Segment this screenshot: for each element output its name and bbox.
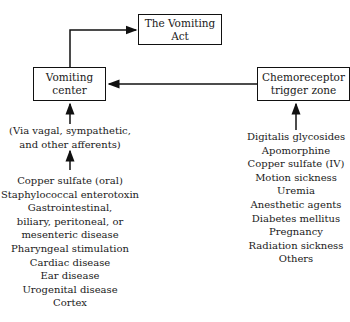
list-item: Copper sulfate (oral) xyxy=(0,174,140,188)
list-item: Cortex xyxy=(0,296,140,310)
list-item: Diabetes mellitus xyxy=(246,212,346,226)
vomiting-act-node: The Vomiting Act xyxy=(138,14,222,45)
ctz-node: Chemoreceptor trigger zone xyxy=(257,67,350,101)
vomiting-act-label: The Vomiting Act xyxy=(139,17,221,43)
list-item: Apomorphine xyxy=(246,144,346,158)
list-item: Radiation sickness xyxy=(246,239,346,253)
vomiting-center-label-2: center xyxy=(52,84,86,97)
list-item: Uremia xyxy=(246,184,346,198)
list-item: Motion sickness xyxy=(246,171,346,185)
list-item: Gastrointestinal, xyxy=(0,201,140,215)
list-item: Others xyxy=(246,252,346,266)
list-item: Anesthetic agents xyxy=(246,198,346,212)
afferents-label: (Via vagal, sympathetic, and other affer… xyxy=(0,124,140,151)
list-item: Copper sulfate (IV) xyxy=(246,157,346,171)
list-item: Ear disease xyxy=(0,269,140,283)
list-item: Urogenital disease xyxy=(0,283,140,297)
list-item: Pregnancy xyxy=(246,225,346,239)
list-item: mesenteric disease xyxy=(0,228,140,242)
list-item: Digitalis glycosides xyxy=(246,130,346,144)
list-item: Staphylococcal enterotoxin xyxy=(0,188,140,202)
list-item: Pharyngeal stimulation xyxy=(0,242,140,256)
vomiting-center-label-1: Vomiting xyxy=(46,71,93,84)
ctz-causes-list: Digitalis glycosides Apomorphine Copper … xyxy=(246,130,346,266)
ctz-label-2: trigger zone xyxy=(271,84,336,97)
vomiting-center-node: Vomiting center xyxy=(33,67,106,101)
ctz-label-1: Chemoreceptor xyxy=(262,71,345,84)
list-item: Cardiac disease xyxy=(0,256,140,270)
list-item: biliary, peritoneal, or xyxy=(0,215,140,229)
peripheral-causes-list: Copper sulfate (oral) Staphylococcal ent… xyxy=(0,174,140,310)
